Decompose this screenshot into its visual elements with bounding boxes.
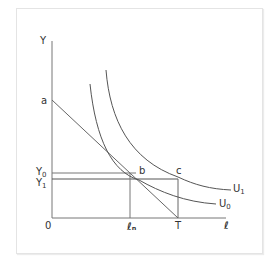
ln-label: ℓₙ bbox=[127, 222, 136, 232]
point-b-label: b bbox=[139, 166, 145, 176]
u1-curve bbox=[106, 70, 231, 190]
y-axis-label: Y bbox=[40, 36, 46, 46]
origin-label: 0 bbox=[45, 221, 51, 231]
x-axis-label: ℓ bbox=[224, 221, 229, 231]
point-c-label: c bbox=[176, 166, 182, 176]
y1-label: Y1 bbox=[36, 178, 47, 190]
u0-curve bbox=[90, 84, 216, 204]
u1-label: U1 bbox=[233, 184, 245, 196]
t-label: T bbox=[175, 221, 181, 231]
u0-label: U0 bbox=[219, 199, 231, 211]
point-a-label: a bbox=[41, 96, 47, 106]
budget-line bbox=[52, 100, 178, 218]
